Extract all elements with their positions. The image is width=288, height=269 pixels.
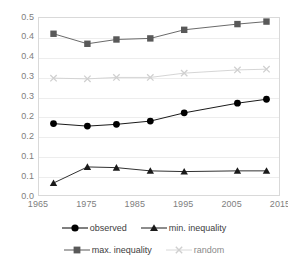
legend-row: observed min. inequality (0, 222, 288, 234)
y-tick-label: 0.4 (0, 52, 34, 61)
legend-item-observed[interactable]: observed (62, 222, 127, 234)
data-point (234, 100, 241, 107)
data-point (50, 31, 56, 37)
data-point (147, 35, 153, 41)
data-point (263, 96, 270, 103)
y-tick-label: 0.1 (0, 152, 34, 161)
legend-item-max-inequality[interactable]: max. inequality (64, 244, 152, 256)
y-tick-label: 0.2 (0, 132, 34, 141)
cross-marker-icon (166, 244, 192, 256)
data-point (84, 123, 91, 130)
legend-label: min. inequality (169, 223, 227, 233)
data-point (234, 21, 240, 27)
legend-label: observed (90, 223, 127, 233)
legend-item-random[interactable]: random (166, 244, 225, 256)
chart-container: 0.5 0.4 0.4 0.3 0.3 0.2 0.2 0.1 0.1 0.0 … (0, 0, 288, 269)
y-tick-label: 0.1 (0, 172, 34, 181)
data-point (181, 27, 187, 33)
square-marker-icon (64, 244, 90, 256)
legend-label: max. inequality (92, 245, 152, 255)
x-tick-label: 1985 (115, 200, 155, 209)
x-tick-label: 1975 (66, 200, 106, 209)
series-random (50, 66, 269, 82)
series-layer (39, 18, 281, 197)
triangle-marker-icon (141, 222, 167, 234)
x-tick-label: 1995 (163, 200, 203, 209)
plot-area (38, 17, 280, 196)
chart-legend: observed min. inequality max. inequality (0, 222, 288, 269)
legend-label: random (194, 245, 225, 255)
y-tick-label: 0.4 (0, 32, 34, 41)
y-tick-label: 0.3 (0, 72, 34, 81)
y-tick-label: 0.5 (0, 13, 34, 22)
y-tick-label: 0.3 (0, 92, 34, 101)
x-tick-label: 1965 (18, 200, 58, 209)
data-point (50, 179, 57, 186)
series-max-inequality (50, 18, 269, 47)
data-point (147, 118, 154, 125)
legend-item-min-inequality[interactable]: min. inequality (141, 222, 227, 234)
data-point (181, 109, 188, 116)
legend-row: max. inequality random (0, 244, 288, 256)
x-tick-label: 2005 (212, 200, 252, 209)
circle-marker-icon (62, 222, 88, 234)
data-point (113, 121, 120, 128)
x-axis: 1965 1975 1985 1995 2005 2015 (0, 200, 288, 214)
y-tick-label: 0.2 (0, 112, 34, 121)
data-point (113, 36, 119, 42)
x-tick-label: 2015 (260, 200, 288, 209)
data-point (263, 18, 269, 24)
data-point (84, 41, 90, 47)
series-min-inequality (50, 163, 270, 186)
series-observed (50, 96, 270, 130)
data-point (50, 120, 57, 127)
